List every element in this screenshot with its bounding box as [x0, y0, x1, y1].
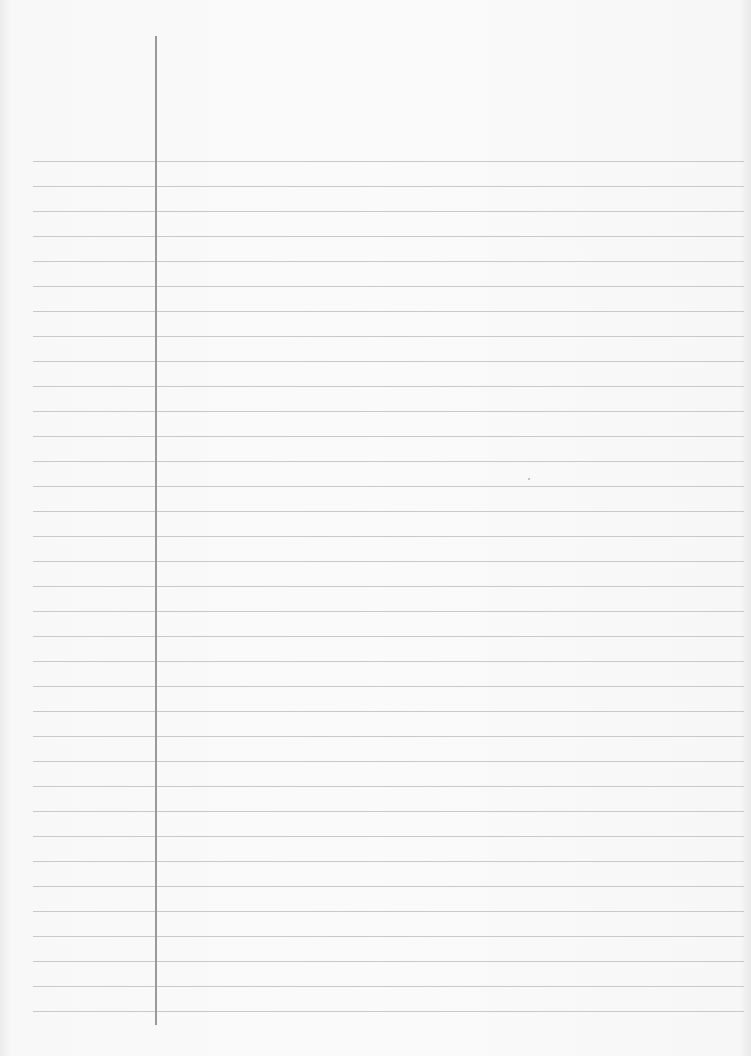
ruled-line	[33, 886, 744, 887]
ruled-line	[33, 436, 744, 437]
ruled-line	[33, 361, 744, 362]
ruled-line	[33, 536, 744, 537]
ruled-line	[33, 236, 744, 237]
ruled-line	[33, 761, 744, 762]
ruled-line	[33, 586, 744, 587]
ruled-line	[33, 161, 744, 162]
ruled-line	[33, 911, 744, 912]
ruled-line	[33, 186, 744, 187]
ruled-line	[33, 736, 744, 737]
lined-paper-sheet	[0, 0, 751, 1056]
ruled-line	[33, 486, 744, 487]
ruled-line	[33, 811, 744, 812]
ruled-line	[33, 861, 744, 862]
ruled-line	[33, 461, 744, 462]
ruled-line	[33, 786, 744, 787]
ruled-line	[33, 211, 744, 212]
ruled-line	[33, 611, 744, 612]
ruled-line	[33, 711, 744, 712]
ruled-line	[33, 511, 744, 512]
ruled-line	[33, 686, 744, 687]
ruled-line	[33, 286, 744, 287]
ruled-line	[33, 311, 744, 312]
ruled-line	[33, 336, 744, 337]
ruled-line	[33, 386, 744, 387]
ruled-line	[33, 836, 744, 837]
ruled-line	[33, 561, 744, 562]
ruled-line	[33, 411, 744, 412]
paper-speck	[528, 478, 530, 480]
ruled-line	[33, 936, 744, 937]
ruled-line	[33, 961, 744, 962]
margin-line	[155, 36, 157, 1025]
ruled-line	[33, 261, 744, 262]
ruled-line	[33, 636, 744, 637]
ruled-line	[33, 986, 744, 987]
ruled-line	[33, 1011, 744, 1012]
ruled-line	[33, 661, 744, 662]
